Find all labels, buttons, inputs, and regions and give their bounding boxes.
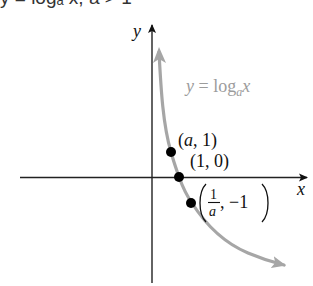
point-a-1 bbox=[166, 147, 176, 157]
point-label-a-1: (a, 1) bbox=[178, 130, 217, 151]
fraction-denominator: a bbox=[209, 204, 216, 219]
x-axis-label: x bbox=[296, 179, 305, 199]
point-label-1-0: (1, 0) bbox=[190, 151, 229, 172]
y-axis-label: y bbox=[131, 21, 141, 41]
point-label-1overa-neg1: 1 a , −1 bbox=[200, 184, 268, 222]
point-1-0 bbox=[174, 172, 184, 182]
fraction-numerator: 1 bbox=[210, 187, 217, 202]
curve-equation-label: y = y = loglogax bbox=[184, 76, 250, 99]
log-graph-figure: y = logₐ x, a > 1 y x y = y = lo bbox=[0, 0, 313, 286]
point-label-rest: , −1 bbox=[220, 192, 248, 212]
point-1overa-neg1 bbox=[186, 198, 196, 208]
